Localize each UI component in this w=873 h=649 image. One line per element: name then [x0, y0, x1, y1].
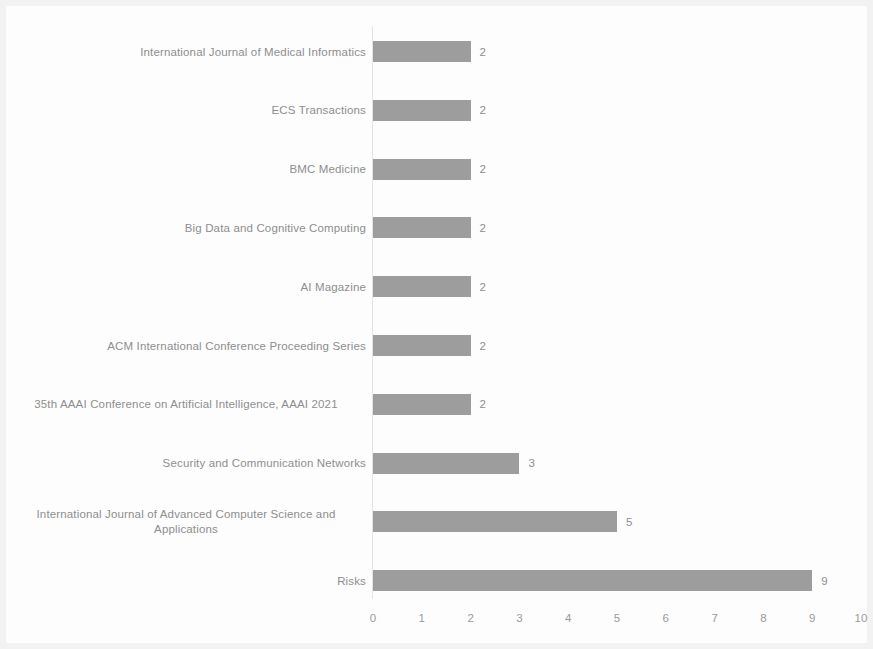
bar-wrapper	[373, 159, 471, 180]
bar[interactable]	[373, 159, 471, 180]
category-label: ACM International Conference Proceeding …	[6, 338, 366, 353]
category-label: ECS Transactions	[6, 103, 366, 118]
value-axis: 012345678910	[0, 612, 873, 632]
bar-value-label: 2	[480, 340, 486, 352]
bar-wrapper	[373, 453, 519, 474]
bar-row: ECS Transactions2	[0, 100, 873, 121]
bar-value-label: 2	[480, 222, 486, 234]
bar-value-label: 5	[626, 516, 632, 528]
bar-value-label: 9	[821, 575, 827, 587]
bar-row: International Journal of Medical Informa…	[0, 41, 873, 62]
bar-row: Big Data and Cognitive Computing2	[0, 217, 873, 238]
bar-row: Security and Communication Networks3	[0, 453, 873, 474]
category-label: Big Data and Cognitive Computing	[6, 220, 366, 235]
category-label: Risks	[6, 573, 366, 588]
bar[interactable]	[373, 41, 471, 62]
bar[interactable]	[373, 335, 471, 356]
bar-wrapper	[373, 217, 471, 238]
x-axis-tick-label: 9	[809, 612, 815, 624]
bar[interactable]	[373, 276, 471, 297]
bar-wrapper	[373, 100, 471, 121]
bar[interactable]	[373, 570, 812, 591]
bar[interactable]	[373, 100, 471, 121]
bar[interactable]	[373, 217, 471, 238]
bar-row: Risks9	[0, 570, 873, 591]
bar-value-label: 2	[480, 46, 486, 58]
bar-row: AI Magazine2	[0, 276, 873, 297]
bar-wrapper	[373, 276, 471, 297]
x-axis-tick-label: 5	[614, 612, 620, 624]
bar-value-label: 2	[480, 281, 486, 293]
bar[interactable]	[373, 511, 617, 532]
bar-value-label: 2	[480, 398, 486, 410]
bar-row: International Journal of Advanced Comput…	[0, 511, 873, 532]
x-axis-tick-label: 6	[663, 612, 669, 624]
bar-value-label: 3	[528, 457, 534, 469]
bar-wrapper	[373, 41, 471, 62]
x-axis-tick-label: 8	[760, 612, 766, 624]
x-axis-tick-label: 1	[419, 612, 425, 624]
bar-value-label: 2	[480, 104, 486, 116]
x-axis-tick-label: 0	[370, 612, 376, 624]
x-axis-tick-label: 7	[711, 612, 717, 624]
category-label: BMC Medicine	[6, 162, 366, 177]
category-label: 35th AAAI Conference on Artificial Intel…	[6, 397, 366, 412]
bar-value-label: 2	[480, 163, 486, 175]
category-label: Security and Communication Networks	[6, 456, 366, 471]
bar-wrapper	[373, 570, 812, 591]
bar-chart: International Journal of Medical Informa…	[0, 0, 873, 649]
bar-wrapper	[373, 394, 471, 415]
bar-row: BMC Medicine2	[0, 159, 873, 180]
x-axis-tick-label: 4	[565, 612, 571, 624]
category-label: International Journal of Medical Informa…	[6, 44, 366, 59]
x-axis-tick-label: 2	[467, 612, 473, 624]
category-label: AI Magazine	[6, 279, 366, 294]
bar-wrapper	[373, 511, 617, 532]
x-axis-tick-label: 10	[855, 612, 868, 624]
bar-wrapper	[373, 335, 471, 356]
bar[interactable]	[373, 394, 471, 415]
x-axis-tick-label: 3	[516, 612, 522, 624]
bar-row: ACM International Conference Proceeding …	[0, 335, 873, 356]
category-label: International Journal of Advanced Comput…	[6, 507, 366, 537]
plot-area: International Journal of Medical Informa…	[0, 0, 873, 649]
bar-row: 35th AAAI Conference on Artificial Intel…	[0, 394, 873, 415]
bar[interactable]	[373, 453, 519, 474]
